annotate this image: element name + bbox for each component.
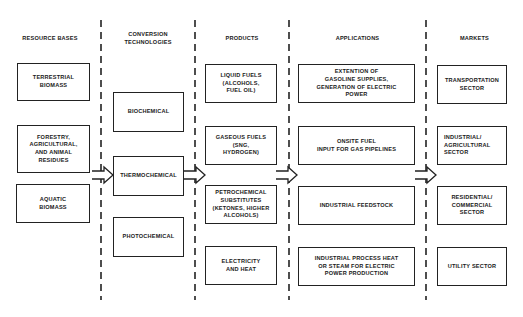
- box-thermochemical: THERMOCHEMICAL: [113, 156, 184, 196]
- header-applications: APPLICATIONS: [289, 34, 426, 42]
- header-markets: MARKETS: [426, 34, 523, 42]
- box-petrochemical-substitutes: PETROCHEMICAL SUBSTITUTES (KETONES, HIGH…: [205, 185, 277, 224]
- header-resource-bases: RESOURCE BASES: [0, 34, 100, 42]
- box-industrial-agricultural-sector: INDUSTRIAL/ AGRICULTURAL SECTOR: [437, 126, 507, 165]
- box-photochemical: PHOTOCHEMICAL: [113, 217, 184, 257]
- box-onsite-fuel: ONSITE FUEL INPUT FOR GAS PIPELINES: [298, 126, 415, 165]
- box-terrestrial-biomass: TERRESTRIAL BIOMASS: [17, 63, 90, 101]
- box-aquatic-biomass: AQUATIC BIOMASS: [16, 184, 90, 223]
- box-gaseous-fuels: GASEOUS FUELS (SNG, HYDROGEN): [205, 126, 277, 165]
- box-industrial-feedstock: INDUSTRIAL FEEDSTOCK: [298, 186, 415, 225]
- box-process-heat: INDUSTRIAL PROCESS HEAT OR STEAM FOR ELE…: [298, 247, 415, 286]
- box-residential-commercial-sector: RESIDENTIAL/ COMMERCIAL SECTOR: [437, 186, 507, 225]
- header-conversion-technologies: CONVERSION TECHNOLOGIES: [101, 30, 195, 46]
- header-products: PRODUCTS: [195, 34, 289, 42]
- box-biochemical: BIOCHEMICAL: [113, 92, 184, 132]
- box-residues: FORESTRY, AGRICULTURAL, AND ANIMAL RESID…: [17, 125, 90, 173]
- box-utility-sector: UTILITY SECTOR: [437, 247, 507, 286]
- flow-arrow-1: [92, 167, 113, 183]
- box-liquid-fuels: LIQUID FUELS (ALCOHOLS, FUEL OIL): [205, 64, 277, 103]
- flow-arrow-3: [276, 167, 297, 183]
- box-gasoline-extension: EXTENTION OF GASOLINE SUPPLIES, GENERATI…: [298, 64, 415, 103]
- box-transportation-sector: TRANSPORTATION SECTOR: [437, 65, 507, 104]
- box-electricity-heat: ELECTRICITY AND HEAT: [205, 246, 277, 285]
